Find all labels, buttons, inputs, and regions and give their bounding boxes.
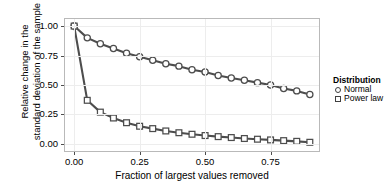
series-normal	[71, 23, 313, 98]
y-tick-label: 0.50	[24, 79, 58, 90]
data-point-square	[163, 128, 169, 134]
data-point-square	[215, 134, 221, 140]
circle-marker-icon	[333, 85, 342, 94]
plot-panel	[64, 18, 320, 152]
data-point-square	[111, 115, 117, 121]
legend-label: Power law	[344, 94, 383, 103]
gridline-horizontal	[65, 56, 319, 57]
legend-item-power-law[interactable]: Power law	[333, 94, 389, 103]
x-tick-label: 0.25	[120, 156, 160, 167]
gridline-horizontal	[65, 114, 319, 115]
x-axis-tick-labels: 0.000.250.500.75	[0, 156, 389, 170]
x-tick-label: 0.00	[54, 156, 94, 167]
gridline-horizontal	[65, 144, 319, 145]
data-point-square	[241, 136, 247, 142]
legend-items: NormalPower law	[333, 85, 389, 103]
y-tick-label: 0.75	[24, 50, 58, 61]
data-point-square	[124, 120, 130, 126]
x-axis-tick	[140, 152, 141, 155]
data-point-circle	[241, 77, 247, 83]
square-marker-icon-shape	[335, 96, 341, 102]
data-point-circle	[189, 67, 195, 73]
data-point-square	[228, 135, 234, 141]
x-tick-label: 0.50	[185, 156, 225, 167]
data-point-circle	[294, 88, 300, 94]
data-point-circle	[215, 72, 221, 78]
data-point-circle	[228, 75, 234, 81]
gridline-horizontal	[65, 85, 319, 86]
data-point-circle	[110, 45, 116, 51]
x-axis-title: Fraction of largest values removed	[64, 170, 320, 181]
square-marker-icon	[333, 94, 342, 103]
data-point-square	[255, 136, 261, 142]
data-point-circle	[150, 57, 156, 63]
y-tick-label: 0.25	[24, 108, 58, 119]
y-tick-label: 0.00	[24, 138, 58, 149]
x-axis-tick	[74, 152, 75, 155]
data-point-square	[150, 126, 156, 132]
data-point-circle	[281, 85, 287, 91]
circle-marker-icon-shape	[335, 87, 341, 93]
y-axis-tick	[61, 85, 64, 86]
y-axis-tick	[61, 56, 64, 57]
y-axis-tick	[61, 114, 64, 115]
data-point-circle	[84, 35, 90, 41]
legend: Distribution NormalPower law	[333, 76, 389, 103]
data-point-circle	[97, 41, 103, 47]
y-axis-tick	[61, 26, 64, 27]
x-axis-tick	[271, 152, 272, 155]
data-point-circle	[163, 61, 169, 67]
data-point-circle	[176, 63, 182, 69]
gridline-vertical	[205, 19, 206, 151]
y-axis-tick	[61, 144, 64, 145]
gridline-horizontal	[65, 26, 319, 27]
gridline-vertical	[271, 19, 272, 151]
gridline-vertical	[74, 19, 75, 151]
data-point-square	[189, 131, 195, 137]
x-tick-label: 0.75	[251, 156, 291, 167]
data-point-square	[176, 130, 182, 136]
chart-figure: Relative change in the standard deviatio…	[0, 0, 389, 194]
data-point-circle	[307, 91, 313, 97]
x-axis-tick	[205, 152, 206, 155]
data-point-square	[281, 138, 287, 144]
y-tick-label: 1.00	[24, 20, 58, 31]
data-point-square	[84, 97, 90, 103]
gridline-vertical	[140, 19, 141, 151]
